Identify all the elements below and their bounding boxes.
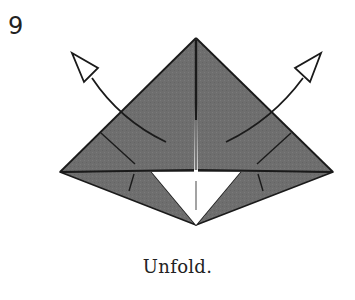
origami-diagram: [0, 0, 355, 300]
step-caption: Unfold.: [0, 256, 355, 277]
